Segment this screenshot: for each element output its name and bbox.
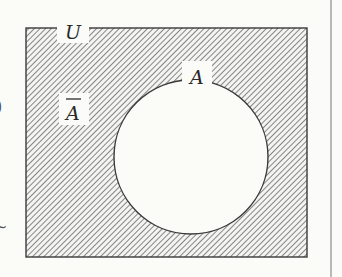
left-edge-fragment-1: ): [0, 97, 2, 116]
venn-diagram: U A A ) ~: [0, 0, 342, 277]
label-A-complement: A: [64, 99, 81, 124]
label-U: U: [65, 21, 82, 43]
label-A: A: [188, 66, 204, 88]
set-A-circle: [114, 80, 268, 234]
label-A-complement-letter: A: [64, 102, 80, 124]
left-edge-fragment-2: ~: [0, 217, 7, 236]
